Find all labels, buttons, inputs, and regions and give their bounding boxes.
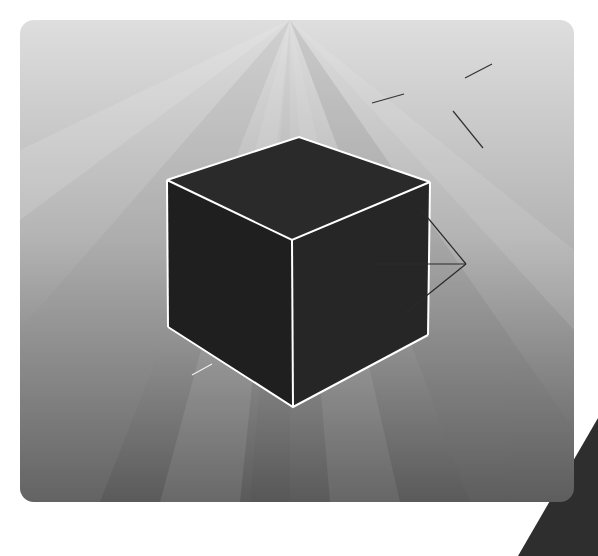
- diagram-illustration: [20, 20, 574, 502]
- diagram-panel: [20, 20, 574, 502]
